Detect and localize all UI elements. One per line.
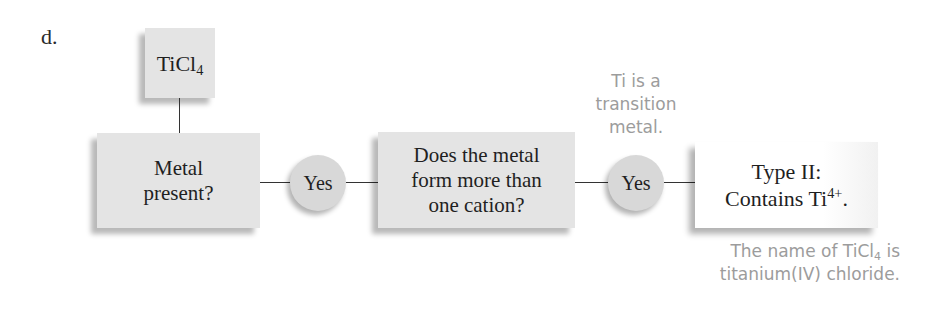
part-label: d.	[41, 24, 58, 50]
compound-formula: TiCl4	[157, 51, 204, 76]
step2-line2: form more than	[411, 168, 542, 193]
connector-step2-to-answer2	[575, 182, 610, 183]
step-multiple-cations-box: Does the metal form more than one cation…	[378, 132, 575, 228]
connector-compound-to-step1	[179, 98, 180, 133]
step1-line1: Metal	[154, 156, 203, 181]
step-metal-present-box: Metal present?	[97, 133, 260, 228]
answer2-label: Yes	[621, 172, 650, 195]
result-line1: Type II:	[752, 158, 822, 185]
step2-line1: Does the metal	[414, 143, 540, 168]
step1-line2: present?	[144, 181, 214, 206]
compound-box: TiCl4	[145, 28, 215, 98]
answer1-label: Yes	[303, 172, 332, 195]
connector-step1-to-answer1	[260, 182, 292, 183]
transition-metal-note: Ti is a transition metal.	[586, 70, 686, 139]
compound-name-note: The name of TiCl4 is titanium(IV) chlori…	[660, 240, 900, 286]
name-note-line1: The name of TiCl4 is	[660, 240, 900, 263]
result-line2: Contains Ti4+.	[725, 185, 848, 212]
answer2-yes-circle: Yes	[608, 155, 664, 211]
connector-answer1-to-step2	[346, 182, 378, 183]
name-note-line2: titanium(IV) chloride.	[660, 263, 900, 286]
connector-answer2-to-result	[664, 182, 695, 183]
step2-line3: one cation?	[428, 193, 524, 218]
result-type-ii-box: Type II: Contains Ti4+.	[695, 142, 878, 228]
answer1-yes-circle: Yes	[290, 155, 346, 211]
